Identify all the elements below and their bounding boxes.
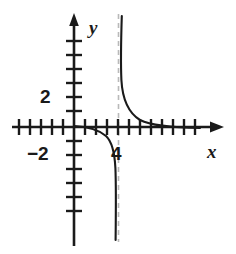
x-tick-label-4: 4 — [111, 143, 122, 164]
plot-canvas: y x 2 −2 4 — [0, 0, 236, 254]
x-axis-label: x — [206, 141, 217, 162]
rational-function-figure: y x 2 −2 4 — [0, 0, 236, 254]
y-axis-label: y — [87, 17, 98, 38]
y-tick-label-2: 2 — [40, 86, 51, 107]
y-tick-label-negative-2: −2 — [27, 143, 49, 164]
